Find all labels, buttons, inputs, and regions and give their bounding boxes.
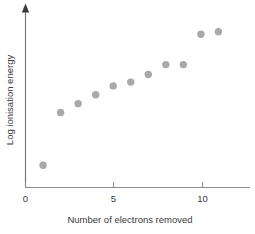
data-point bbox=[39, 162, 46, 169]
x-tick-label-0: 0 bbox=[23, 193, 28, 204]
data-point bbox=[74, 100, 81, 107]
x-tick-label-5: 5 bbox=[111, 193, 116, 204]
data-point bbox=[145, 71, 152, 78]
data-point bbox=[127, 78, 134, 85]
data-point bbox=[215, 28, 222, 35]
data-point bbox=[57, 109, 64, 116]
x-tick-label-10: 10 bbox=[197, 193, 208, 204]
data-point bbox=[92, 91, 99, 98]
y-axis-title: Log ionisation energy bbox=[4, 55, 15, 146]
data-point bbox=[180, 61, 187, 68]
x-axis-title: Number of electrons removed bbox=[67, 214, 192, 225]
plot-background bbox=[0, 0, 255, 234]
data-point bbox=[162, 61, 169, 68]
data-point bbox=[110, 82, 117, 89]
chart-container: 0 5 10 Number of electrons removed Log i… bbox=[0, 0, 255, 234]
scatter-plot: 0 5 10 Number of electrons removed Log i… bbox=[0, 0, 255, 234]
data-point bbox=[197, 30, 204, 37]
